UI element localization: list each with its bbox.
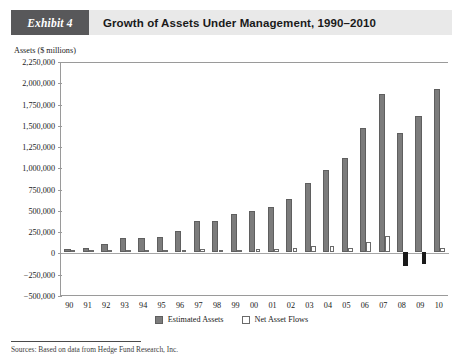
- x-axis-tick-label: 08: [398, 301, 406, 310]
- legend-swatch-estimated-assets: [155, 316, 163, 324]
- x-axis-tick-label: 92: [102, 301, 110, 310]
- y-axis-tick: [58, 296, 62, 297]
- bar-net-asset-flows: [385, 236, 390, 253]
- x-axis-tick-label: 95: [158, 301, 166, 310]
- bar-estimated-assets: [157, 237, 163, 253]
- y-axis-tick-label: 2,000,000: [22, 79, 55, 88]
- chart-legend: Estimated Assets Net Asset Flows: [0, 315, 463, 324]
- footnote-rule: [11, 341, 141, 342]
- y-axis-tick: [58, 126, 62, 127]
- x-axis-tick-label: 07: [379, 301, 387, 310]
- x-axis-tick-label: 99: [231, 301, 239, 310]
- y-axis-tick-label: 750,000: [28, 185, 55, 194]
- x-axis-tick-label: 90: [65, 301, 73, 310]
- bar-net-asset-flows: [348, 248, 353, 252]
- x-axis-tick-label: 02: [287, 301, 295, 310]
- x-axis-tick-label: 04: [324, 301, 332, 310]
- bar-estimated-assets: [415, 116, 421, 252]
- x-axis-tick-label: 96: [176, 301, 184, 310]
- page-title: Growth of Assets Under Management, 1990–…: [89, 10, 452, 35]
- y-axis-tick: [58, 105, 62, 106]
- bar-estimated-assets: [379, 94, 385, 253]
- bar-estimated-assets: [249, 211, 255, 253]
- x-axis-tick-label: 91: [84, 301, 92, 310]
- y-axis-title: Assets ($ millions): [14, 46, 76, 55]
- bar-net-asset-flows: [71, 250, 76, 252]
- y-axis-tick-label: 1,250,000: [22, 143, 55, 152]
- x-axis-tick-label: 05: [342, 301, 350, 310]
- bar-net-asset-flows: [126, 250, 131, 253]
- bar-net-asset-flows: [440, 248, 445, 253]
- y-axis-tick-label: −500,000: [24, 292, 55, 301]
- x-axis-tick-label: 00: [250, 301, 258, 310]
- legend-item-net-asset-flows: Net Asset Flows: [242, 315, 309, 324]
- bar-net-asset-flows: [274, 249, 279, 253]
- chart-container: Assets ($ millions) 2,250,0002,000,0001,…: [0, 35, 463, 335]
- bar-estimated-assets: [64, 249, 70, 252]
- y-axis-tick-label: 250,000: [28, 228, 55, 237]
- bar-estimated-assets: [286, 199, 292, 252]
- legend-swatch-net-asset-flows: [242, 316, 250, 324]
- bar-net-asset-flows: [330, 246, 335, 252]
- bar-net-asset-flows: [311, 246, 316, 252]
- bar-estimated-assets: [305, 183, 311, 253]
- bar-estimated-assets: [231, 214, 237, 253]
- x-axis-tick-label: 09: [416, 301, 424, 310]
- bar-net-asset-flows: [219, 250, 224, 252]
- x-axis-tick-label: 97: [194, 301, 202, 310]
- bar-net-asset-flows: [200, 249, 205, 252]
- y-axis-tick: [58, 211, 62, 212]
- y-axis-tick-label: 500,000: [28, 206, 55, 215]
- bar-estimated-assets: [120, 238, 126, 252]
- y-axis-tick-label: 1,000,000: [22, 164, 55, 173]
- legend-label-net-asset-flows: Net Asset Flows: [255, 315, 309, 324]
- x-axis-tick-label: 01: [268, 301, 276, 310]
- bar-estimated-assets: [434, 89, 440, 252]
- plot-area: 2,250,0002,000,0001,750,0001,500,0001,25…: [60, 62, 448, 296]
- bar-net-asset-flows: [293, 248, 298, 252]
- x-axis-tick-label: 94: [139, 301, 147, 310]
- bar-net-asset-flows: [403, 252, 408, 265]
- y-axis-tick-label: 2,250,000: [22, 58, 55, 67]
- bar-net-asset-flows: [366, 242, 371, 253]
- y-axis-tick: [58, 168, 62, 169]
- exhibit-header: Exhibit 4 Growth of Assets Under Managem…: [11, 10, 452, 35]
- y-axis-tick: [58, 62, 62, 63]
- y-axis-tick: [58, 83, 62, 84]
- legend-item-estimated-assets: Estimated Assets: [155, 315, 224, 324]
- bar-estimated-assets: [268, 207, 274, 253]
- exhibit-label: Exhibit 4: [11, 10, 89, 35]
- y-axis-tick-label: 1,500,000: [22, 121, 55, 130]
- y-axis-tick: [58, 232, 62, 233]
- bar-net-asset-flows: [256, 249, 261, 252]
- bar-estimated-assets: [83, 248, 89, 253]
- bar-net-asset-flows: [89, 250, 94, 252]
- bar-estimated-assets: [101, 244, 107, 252]
- bar-estimated-assets: [360, 128, 366, 253]
- x-axis-tick-label: 10: [435, 301, 443, 310]
- y-axis-tick-label: −250,000: [24, 270, 55, 279]
- bar-net-asset-flows: [237, 250, 242, 253]
- bar-estimated-assets: [194, 221, 200, 252]
- bar-estimated-assets: [323, 170, 329, 253]
- y-axis-tick: [58, 147, 62, 148]
- y-axis-tick: [58, 253, 62, 254]
- y-axis-tick: [58, 190, 62, 191]
- bar-net-asset-flows: [145, 250, 150, 252]
- x-axis-tick-label: 93: [121, 301, 129, 310]
- bar-estimated-assets: [342, 158, 348, 252]
- bar-net-asset-flows: [163, 250, 168, 252]
- y-axis-tick: [58, 275, 62, 276]
- bar-estimated-assets: [212, 221, 218, 253]
- y-axis-tick-label: 0: [51, 249, 55, 258]
- y-axis-tick-label: 1,750,000: [22, 100, 55, 109]
- zero-baseline: [61, 253, 449, 254]
- bar-net-asset-flows: [108, 250, 113, 252]
- bar-estimated-assets: [138, 238, 144, 252]
- x-axis-tick-label: 98: [213, 301, 221, 310]
- bar-net-asset-flows: [182, 250, 187, 252]
- bar-net-asset-flows: [422, 252, 427, 263]
- x-axis-tick-label: 03: [305, 301, 313, 310]
- bar-estimated-assets: [175, 231, 181, 253]
- legend-label-estimated-assets: Estimated Assets: [168, 315, 224, 324]
